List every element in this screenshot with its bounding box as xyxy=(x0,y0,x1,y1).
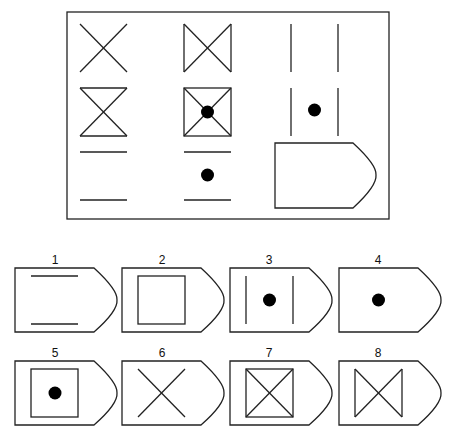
cell-3-2-horizontal-lines-dot xyxy=(184,152,231,200)
puzzle-canvas xyxy=(0,0,455,433)
dot-icon xyxy=(201,169,214,182)
cell-2-1-hourglass xyxy=(80,88,127,136)
cell-1-1-x-cross xyxy=(80,24,127,72)
cell-1-2-bowtie xyxy=(184,24,231,72)
dot-icon xyxy=(372,294,385,307)
cell-2-3-vertical-lines-dot xyxy=(291,88,338,136)
option-6[interactable] xyxy=(122,361,224,425)
option-7[interactable] xyxy=(230,361,332,425)
option-7-label: 7 xyxy=(259,346,279,360)
dot-icon xyxy=(201,106,214,119)
cell-3-1-horizontal-lines xyxy=(80,152,127,200)
dot-icon xyxy=(308,104,321,117)
matrix-frame xyxy=(67,12,389,219)
option-5[interactable] xyxy=(15,361,117,425)
cell-2-2-square-diagonals-dot xyxy=(184,88,231,136)
option-4[interactable] xyxy=(339,268,441,332)
option-1[interactable] xyxy=(15,268,117,332)
option-6-label: 6 xyxy=(152,346,172,360)
option-2[interactable] xyxy=(122,268,224,332)
option-1-label: 1 xyxy=(45,253,65,267)
option-3[interactable] xyxy=(230,268,332,332)
cell-1-3-vertical-lines xyxy=(291,24,338,72)
option-2-label: 2 xyxy=(152,253,172,267)
option-4-label: 4 xyxy=(368,253,388,267)
cell-3-3-missing-placeholder xyxy=(275,143,376,208)
option-8-label: 8 xyxy=(368,346,388,360)
option-5-label: 5 xyxy=(45,346,65,360)
dot-icon xyxy=(263,294,276,307)
dot-icon xyxy=(49,387,62,400)
option-3-label: 3 xyxy=(259,253,279,267)
option-8[interactable] xyxy=(339,361,441,425)
